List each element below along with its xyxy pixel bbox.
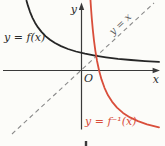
- function-inverse-diagram: y = f(x) y = f⁻¹(x) y = x y x O: [0, 0, 165, 146]
- curve-f-inverse-label: y = f⁻¹(x): [84, 115, 137, 128]
- x-axis-label: x: [153, 73, 160, 86]
- y-axis-arrow-icon: [79, 3, 84, 11]
- origin-label: O: [84, 72, 93, 85]
- y-axis-label: y: [70, 3, 78, 16]
- y-axis: [79, 3, 84, 130]
- diagram-canvas: y = f(x) y = f⁻¹(x) y = x y x O: [0, 0, 165, 146]
- curve-f-label: y = f(x): [3, 31, 45, 44]
- identity-line-label: y = x: [106, 11, 133, 38]
- caption-fragment: [85, 141, 87, 146]
